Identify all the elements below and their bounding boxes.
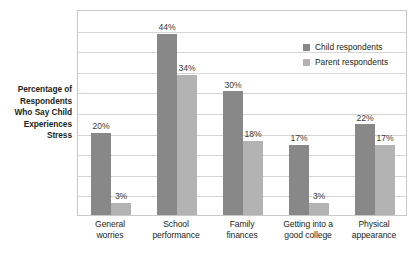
bar-value-label: 34% xyxy=(179,63,196,73)
x-axis-label-line: School xyxy=(143,219,209,230)
x-axis-label-line: good college xyxy=(275,230,341,241)
bar-value-label: 44% xyxy=(159,22,176,32)
x-axis-label-line: General xyxy=(77,219,143,230)
bar-value-label: 22% xyxy=(357,113,374,123)
x-axis-label-line: Getting into a xyxy=(275,219,341,230)
x-axis-label-line: appearance xyxy=(341,230,407,241)
x-axis-label-2: Schoolperformance xyxy=(143,219,209,242)
legend-swatch-parent-icon xyxy=(303,59,310,66)
legend-label-child: Child respondents xyxy=(315,43,383,51)
bar-group: 44%34% xyxy=(144,11,210,215)
y-axis-title-line-2: Respondents xyxy=(0,96,72,108)
y-axis-title-line-4: Experiences xyxy=(0,119,72,131)
bar-child[interactable] xyxy=(223,91,243,215)
x-axis-label-4: Getting into agood college xyxy=(275,219,341,242)
x-axis-label-1: Generalworries xyxy=(77,219,143,242)
bar-parent[interactable] xyxy=(111,203,131,215)
bar-group: 20%3% xyxy=(78,11,144,215)
x-axis-labels: GeneralworriesSchoolperformanceFamilyfin… xyxy=(77,219,407,253)
bar-value-label: 17% xyxy=(377,133,394,143)
bar-child[interactable] xyxy=(91,133,111,215)
legend-label-parent: Parent respondents xyxy=(315,58,388,66)
x-axis-label-line: finances xyxy=(209,230,275,241)
bar-value-label: 17% xyxy=(291,133,308,143)
y-axis-title-line-1: Percentage of xyxy=(0,84,72,96)
bar-value-label: 30% xyxy=(225,80,242,90)
legend-item-child[interactable]: Child respondents xyxy=(303,41,388,53)
bar-value-label: 20% xyxy=(93,121,110,131)
legend-item-parent[interactable]: Parent respondents xyxy=(303,56,388,68)
bar-parent[interactable] xyxy=(309,203,329,215)
bar-chart-figure: Percentage of Respondents Who Say Child … xyxy=(0,0,413,257)
legend-swatch-child-icon xyxy=(303,44,310,51)
bar-value-label: 18% xyxy=(245,129,262,139)
bar-parent[interactable] xyxy=(375,145,395,215)
x-axis-label-5: Physicalappearance xyxy=(341,219,407,242)
y-axis-title-line-5: Stress xyxy=(0,130,72,142)
x-axis-label-line: worries xyxy=(77,230,143,241)
bar-parent[interactable] xyxy=(243,141,263,215)
bar-group: 30%18% xyxy=(210,11,276,215)
bar-child[interactable] xyxy=(157,34,177,215)
bar-child[interactable] xyxy=(289,145,309,215)
x-axis-label-line: Physical xyxy=(341,219,407,230)
y-axis-title-line-3: Who Say Child xyxy=(0,107,72,119)
x-axis-label-3: Familyfinances xyxy=(209,219,275,242)
bar-child[interactable] xyxy=(355,124,375,215)
legend: Child respondents Parent respondents xyxy=(303,41,388,71)
bar-value-label: 3% xyxy=(115,191,127,201)
bar-value-label: 3% xyxy=(313,191,325,201)
x-axis-label-line: Family xyxy=(209,219,275,230)
bar-parent[interactable] xyxy=(177,75,197,215)
x-axis-label-line: performance xyxy=(143,230,209,241)
y-axis-title: Percentage of Respondents Who Say Child … xyxy=(0,84,72,142)
